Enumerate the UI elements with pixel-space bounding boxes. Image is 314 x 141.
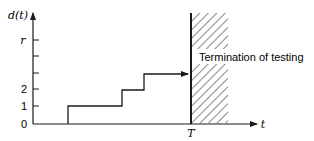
y-tick-label-1: 1 (21, 100, 27, 112)
y-tick-label-2: 2 (21, 83, 27, 95)
y-tick-label-0: 0 (21, 118, 27, 130)
x-axis-label: t (261, 118, 266, 131)
step-function-line (68, 74, 188, 124)
y-ticks (33, 40, 39, 106)
termination-region (191, 13, 228, 123)
termination-annotation: Termination of testing (199, 51, 304, 63)
step-function-diagram: r 2 1 0 d(t) t T Termination of testing (0, 0, 314, 141)
termination-time-label: T (187, 127, 196, 140)
y-tick-label-r: r (20, 34, 26, 47)
y-axis-label: d(t) (8, 9, 28, 22)
